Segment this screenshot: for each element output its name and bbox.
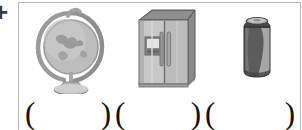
paren-open-2: ( [115, 98, 125, 129]
answer-blank-refrigerator[interactable]: ( ) [115, 93, 201, 130]
picture-cell-can [211, 3, 302, 95]
picture-cell-globe [21, 3, 121, 95]
picture-cell-refrigerator [121, 3, 211, 95]
answer-row: ( ) ( ) ( ) [19, 93, 302, 130]
paren-open-1: ( [25, 98, 35, 129]
answer-blank-globe[interactable]: ( ) [25, 93, 111, 130]
paren-open-3: ( [205, 98, 215, 129]
scan-edge-artifact: + [0, 2, 8, 28]
globe-icon [30, 6, 112, 94]
soda-can-icon [239, 15, 275, 81]
refrigerator-icon [132, 6, 200, 92]
exercise-box: ( ) ( ) ( ) [18, 2, 301, 130]
paren-close-2: ) [191, 98, 201, 129]
paren-close-3: ) [285, 98, 295, 129]
scan-edge-artifact-glyph: + [0, 2, 6, 24]
picture-row [19, 3, 302, 95]
paren-close-1: ) [101, 98, 111, 129]
answer-blank-can[interactable]: ( ) [205, 93, 295, 130]
